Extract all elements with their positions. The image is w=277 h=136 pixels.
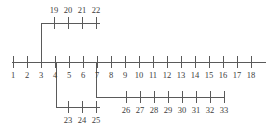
tick-label-15: 15 — [205, 70, 214, 80]
tick-group — [13, 17, 251, 113]
tick-label-17: 17 — [233, 70, 242, 80]
tick-label-6: 6 — [81, 70, 85, 80]
tick-label-22: 22 — [92, 5, 101, 15]
tick-label-23: 23 — [64, 115, 73, 125]
tick-label-5: 5 — [67, 70, 71, 80]
tick-label-10: 10 — [135, 70, 144, 80]
tick-label-13: 13 — [177, 70, 186, 80]
tick-label-9: 9 — [123, 70, 127, 80]
tick-label-25: 25 — [92, 115, 101, 125]
tick-label-33: 33 — [220, 105, 229, 115]
tick-label-32: 32 — [206, 105, 215, 115]
diagram-canvas: 1234567891011121314151617181920212223242… — [0, 0, 277, 136]
tick-label-11: 11 — [149, 70, 157, 80]
tick-label-31: 31 — [192, 105, 201, 115]
tick-label-24: 24 — [78, 115, 87, 125]
tick-label-8: 8 — [109, 70, 113, 80]
tick-label-26: 26 — [122, 105, 131, 115]
tick-label-21: 21 — [78, 5, 87, 15]
tick-label-19: 19 — [50, 5, 59, 15]
branching-number-line-diagram: 1234567891011121314151617181920212223242… — [0, 0, 277, 136]
tick-label-30: 30 — [178, 105, 187, 115]
tick-label-3: 3 — [39, 70, 43, 80]
tick-label-2: 2 — [25, 70, 29, 80]
tick-label-12: 12 — [163, 70, 172, 80]
tick-label-16: 16 — [219, 70, 228, 80]
tick-label-28: 28 — [150, 105, 159, 115]
tick-label-4: 4 — [53, 70, 58, 80]
tick-label-29: 29 — [164, 105, 173, 115]
tick-label-18: 18 — [247, 70, 256, 80]
tick-label-1: 1 — [11, 70, 15, 80]
tick-label-14: 14 — [191, 70, 200, 80]
tick-label-27: 27 — [136, 105, 145, 115]
tick-label-20: 20 — [64, 5, 73, 15]
tick-label-7: 7 — [95, 70, 99, 80]
